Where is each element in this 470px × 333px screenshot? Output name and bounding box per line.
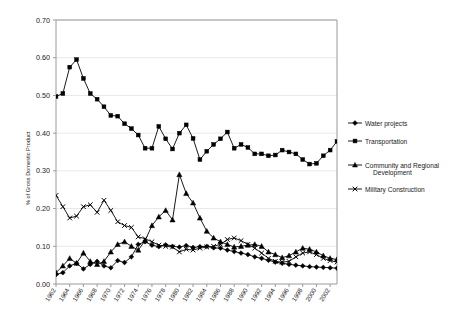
marker-square [232, 146, 236, 150]
marker-triangle [177, 172, 182, 177]
marker-diamond [252, 254, 257, 259]
legend-label: Military Construction [365, 186, 425, 194]
line-chart: 0.000.100.200.300.400.500.600.7019621964… [0, 0, 470, 333]
marker-diamond [191, 245, 196, 250]
marker-square [88, 92, 92, 96]
y-axis-label: % of Gross Domestic Product [25, 131, 31, 205]
ytick-label: 0.20 [36, 204, 50, 213]
ytick-label: 0.40 [36, 129, 50, 138]
legend-label-continued: Development [373, 169, 412, 177]
marker-square [129, 127, 133, 131]
marker-square [116, 114, 120, 118]
marker-square [308, 162, 312, 166]
marker-square [294, 152, 298, 156]
marker-square [260, 152, 264, 156]
marker-triangle [286, 253, 291, 258]
ytick-label: 0.70 [36, 16, 50, 25]
legend-item-1[interactable]: Water projects [348, 120, 408, 128]
marker-triangle [293, 249, 298, 254]
ytick-label: 0.30 [36, 166, 50, 175]
marker-square [171, 147, 175, 151]
ytick-label: 0.50 [36, 91, 50, 100]
marker-square [150, 146, 154, 150]
marker-square [184, 123, 188, 127]
marker-square [280, 148, 284, 152]
series-2 [54, 58, 339, 166]
marker-square [198, 158, 202, 162]
marker-diamond [232, 249, 237, 254]
legend-item-4[interactable]: Military Construction [348, 186, 425, 194]
xtick-label: 1970 [98, 286, 112, 302]
xtick-label: 1982 [181, 286, 195, 302]
marker-diamond [293, 263, 298, 268]
marker-triangle [204, 229, 209, 234]
marker-diamond [335, 266, 340, 271]
marker-triangle [184, 191, 189, 196]
marker-diamond [307, 264, 312, 269]
marker-square [177, 131, 181, 135]
xtick-label: 1984 [194, 286, 208, 302]
marker-square [102, 105, 106, 109]
marker-diamond [300, 263, 305, 268]
legend-label: Water projects [365, 120, 408, 128]
legend-item-2[interactable]: Transportation [348, 138, 408, 146]
chart-container: 0.000.100.200.300.400.500.600.7019621964… [0, 0, 470, 333]
marker-square [315, 161, 319, 165]
marker-square [219, 137, 223, 141]
marker-square [335, 140, 339, 144]
marker-triangle [67, 256, 72, 261]
xtick-label: 1994 [263, 286, 277, 302]
xtick-label: 1992 [249, 286, 263, 302]
marker-square [353, 139, 357, 143]
marker-diamond [177, 245, 182, 250]
ytick-label: 0.00 [36, 280, 50, 289]
series-3 [53, 172, 339, 275]
marker-square [225, 130, 229, 134]
marker-cross [95, 210, 100, 215]
marker-square [68, 65, 72, 69]
xtick-label: 1990 [235, 286, 249, 302]
marker-square [273, 153, 277, 157]
marker-diamond [102, 263, 107, 268]
xtick-label: 1978 [153, 286, 167, 302]
marker-square [95, 97, 99, 101]
ytick-label: 0.10 [36, 242, 50, 251]
xtick-label: 1972 [112, 286, 126, 302]
xtick-label: 1976 [139, 286, 153, 302]
marker-square [321, 154, 325, 158]
xtick-label: 1988 [222, 286, 236, 302]
marker-square [75, 58, 79, 62]
marker-triangle [122, 239, 127, 244]
xtick-label: 2002 [318, 286, 332, 302]
xtick-label: 1966 [71, 286, 85, 302]
series-line-2 [56, 60, 337, 164]
xtick-label: 1986 [208, 286, 222, 302]
marker-cross [239, 238, 244, 243]
marker-diamond [246, 252, 251, 257]
xtick-label: 1996 [277, 286, 291, 302]
ytick-label: 0.60 [36, 53, 50, 62]
marker-square [239, 143, 243, 147]
xtick-label: 1962 [43, 286, 57, 302]
marker-square [191, 137, 195, 141]
marker-triangle [197, 215, 202, 220]
marker-triangle [81, 250, 86, 255]
marker-square [253, 152, 257, 156]
xtick-label: 1968 [85, 286, 99, 302]
marker-cross [259, 251, 264, 256]
marker-diamond [259, 256, 264, 261]
marker-square [164, 137, 168, 141]
xtick-label: 2000 [304, 286, 318, 302]
xtick-label: 1964 [57, 286, 71, 302]
marker-square [212, 143, 216, 147]
legend-item-3[interactable]: Community and RegionalDevelopment [348, 162, 440, 178]
marker-diamond [239, 251, 244, 256]
marker-diamond [204, 244, 209, 249]
marker-square [61, 92, 65, 96]
marker-diamond [225, 248, 230, 253]
marker-square [301, 158, 305, 162]
marker-diamond [314, 265, 319, 270]
marker-square [267, 154, 271, 158]
marker-square [205, 149, 209, 153]
marker-square [143, 146, 147, 150]
